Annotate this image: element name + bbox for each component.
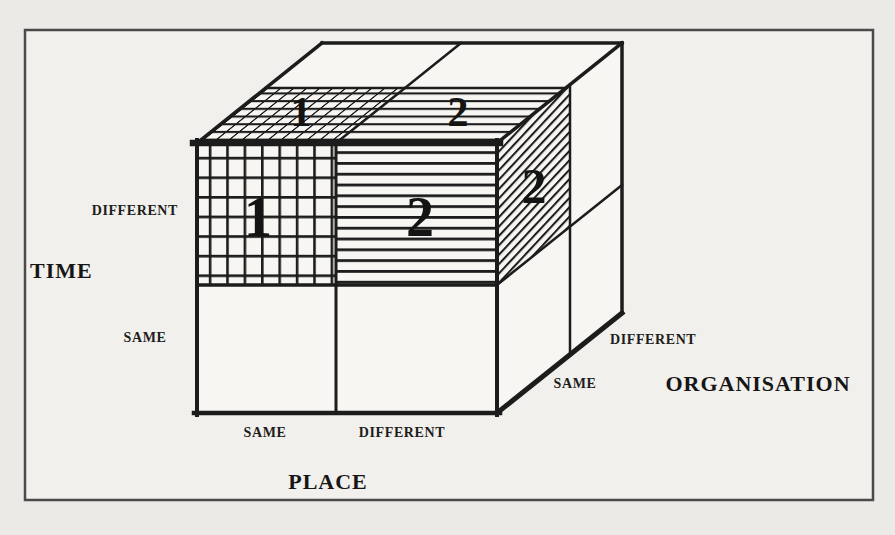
number-top-front-left: 1 [291,89,312,135]
label-place-different: DIFFERENT [359,425,445,440]
number-front-top-right: 2 [406,186,434,248]
number-side-top-front: 2 [522,158,547,214]
label-organisation-same: SAME [554,376,597,391]
label-place-title: PLACE [288,469,368,494]
label-organisation-different: DIFFERENT [610,332,696,347]
label-time-same: SAME [124,330,167,345]
label-organisation-title: ORGANISATION [665,371,850,396]
figure-page: 1 2 1 2 2 DIFFERENT TIME SAME SAME DIFFE… [0,0,895,535]
number-top-front-right: 2 [448,89,469,135]
cube-diagram: 1 2 1 2 2 DIFFERENT TIME SAME SAME DIFFE… [0,0,895,535]
label-time-different: DIFFERENT [92,203,178,218]
number-front-top-left: 1 [244,186,272,248]
label-place-same: SAME [244,425,287,440]
label-time-title: TIME [30,258,93,283]
